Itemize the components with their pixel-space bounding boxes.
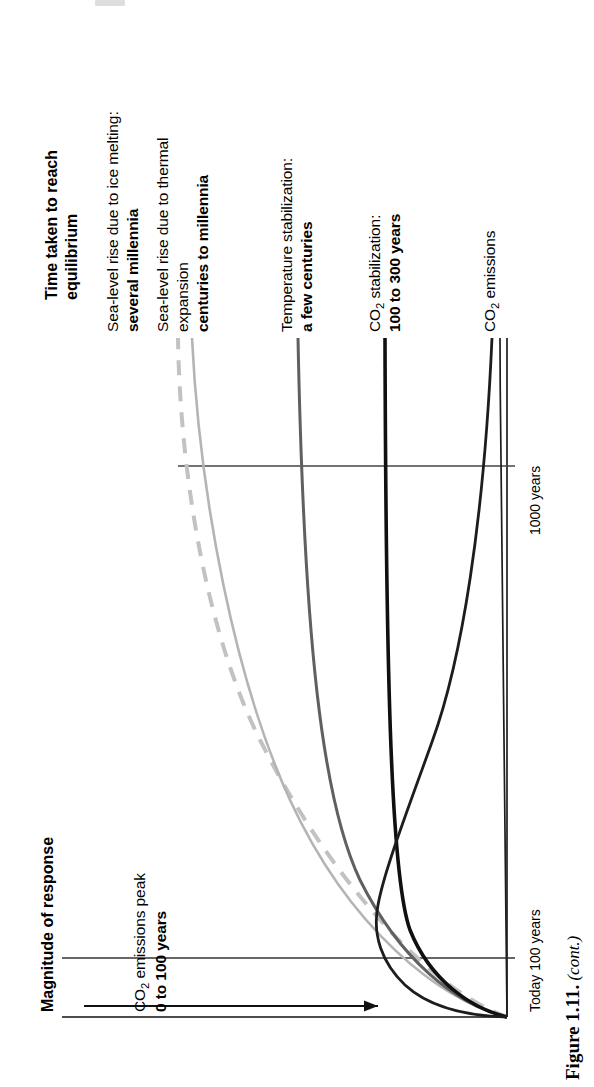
series-temperature-stabilization (298, 338, 507, 1017)
legend-temperature-stabilization-line1: Temperature stabilization: (278, 158, 297, 332)
annotation-emissions-peak-rest: emissions peak (131, 873, 148, 983)
legend-sea-level-thermal-line3: centuries to millennia (194, 175, 213, 332)
legend-sea-level-thermal-line1: Sea-level rise due to thermal (154, 138, 173, 332)
annotation-emissions-peak-subscript: 2 (139, 983, 151, 989)
figure-caption-number: Figure 1.11. (562, 985, 583, 1080)
legend-co2-stabilization-line1: CO2 stabilization: (366, 215, 385, 332)
annotation-emissions-peak-line1: CO2 emissions peak (131, 873, 150, 1012)
block-title-line2: equilibrium (62, 214, 82, 300)
climate-response-chart (0, 0, 594, 1087)
x-tick-label-today: Today 100 years (527, 909, 544, 1012)
legend-temperature-stabilization-line2: a few centuries (298, 222, 317, 333)
y-axis-label: Magnitude of response (38, 837, 58, 1012)
annotation-emissions-peak-co: CO (131, 989, 148, 1012)
legend-co2-emissions-subscript: 2 (489, 303, 501, 309)
legend-co2-emissions-rest: emissions (481, 231, 498, 303)
series-sea-level-thermal-expansion (192, 338, 507, 1017)
series-co2-emissions (376, 338, 507, 1017)
legend-co2-emissions-co: CO (481, 309, 498, 332)
figure-caption: Figure 1.11. (cont.) (562, 936, 584, 1080)
annotation-emissions-peak-line2: 0 to 100 years (152, 911, 171, 1012)
legend-sea-level-ice-melting-line1: Sea-level rise due to ice melting: (104, 111, 123, 332)
series-co2-stabilization (385, 338, 507, 1017)
legend-co2-stabilization-co: CO (366, 309, 383, 332)
series-sea-level-ice-melting (178, 338, 507, 1017)
legend-sea-level-thermal-line2: expansion (174, 262, 193, 332)
legend-co2-stabilization-line2: 100 to 300 years (386, 214, 405, 332)
legend-sea-level-ice-melting-line2: several millennia (124, 209, 143, 332)
legend-co2-emissions-line1: CO2 emissions (481, 231, 500, 332)
chart-plot-area (0, 0, 594, 1087)
emissions-peak-arrow (84, 1001, 378, 1012)
series-co2-emissions-stem (500, 338, 507, 1017)
legend-co2-stabilization-rest: stabilization: (366, 215, 383, 303)
figure-caption-cont: (cont.) (564, 936, 583, 985)
block-title-line1: Time taken to reach (42, 150, 62, 300)
figure-caption-cont-text: (cont.) (564, 936, 583, 981)
legend-co2-stabilization-subscript: 2 (374, 303, 386, 309)
x-tick-label-1000-years: 1000 years (527, 466, 544, 535)
